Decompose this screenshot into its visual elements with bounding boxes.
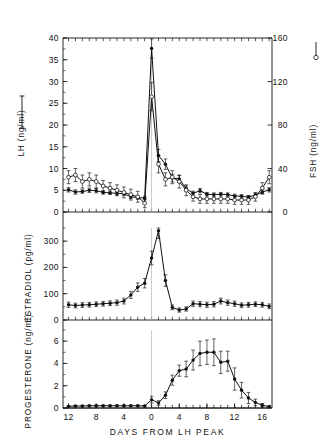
data-point [150,398,153,401]
plot-frame [63,38,272,408]
data-point [253,195,257,199]
data-point [67,175,71,179]
y2tick-label: 40 [278,164,288,174]
ytick-label: 20 [49,120,59,130]
xtick-label: 12 [63,412,73,422]
data-point [178,308,181,311]
data-point [198,303,201,306]
data-point [80,180,84,184]
y-axis-title: PROGESTERONE (ng/ml) [24,314,33,429]
ytick-label: 200 [44,262,59,272]
ytick-label: 6 [54,336,59,346]
ytick-label: 300 [44,236,59,246]
data-point [108,404,111,407]
data-point [81,303,84,306]
series-line [69,231,270,310]
y-axis-title: LH (ng/ml) [17,109,26,156]
data-point [67,188,70,191]
data-point [247,303,250,306]
ytick-label: 35 [49,55,59,65]
data-point [178,369,181,372]
y-axis-title: ESTRADIOL (pg/ml) [24,233,33,322]
data-point [122,299,125,302]
data-point [254,401,257,404]
series-line [69,97,270,204]
data-point [184,188,188,192]
data-point [108,301,111,304]
data-point [95,189,98,192]
ytick-label: 0 [54,207,59,217]
data-point [170,175,174,179]
data-point [101,404,104,407]
data-point [226,301,229,304]
series-line [69,48,270,198]
xtick-label: 8 [204,412,209,422]
ytick-label: 0 [54,403,59,413]
data-point [129,293,132,296]
hormone-profile-chart: 051015202530354004080120160FSH (ng/ml)LH… [0,0,336,446]
y2tick-label: 160 [273,33,288,43]
data-point [150,95,154,99]
data-point [81,190,84,193]
data-point [268,188,271,191]
data-point [184,367,187,370]
ytick-label: 15 [49,142,59,152]
data-point [184,307,187,310]
data-point [261,303,264,306]
xtick-label: 8 [94,412,99,422]
data-point [157,229,160,232]
ytick-label: 5 [54,185,59,195]
data-point [81,404,84,407]
data-point [136,195,140,199]
xtick-label: 4 [177,412,182,422]
xtick-label: 12 [229,412,239,422]
data-point [164,177,168,181]
data-point [87,177,91,181]
data-point [129,404,132,407]
data-point [115,404,118,407]
data-point [157,401,160,404]
data-point [240,388,243,391]
data-point [233,198,237,202]
data-point [247,396,250,399]
ytick-label: 40 [49,33,59,43]
y2tick-label: 80 [278,120,288,130]
series-lh [67,39,271,200]
panel-estradiol: 0100200300ESTRADIOL (pg/ml) [24,228,272,325]
data-point [240,304,243,307]
data-point [95,303,98,306]
data-point [74,304,77,307]
data-point [205,197,209,201]
data-point [136,404,139,407]
ytick-label: 10 [49,164,59,174]
data-point [267,175,271,179]
data-point [226,197,230,201]
ytick-label: 100 [44,289,59,299]
ytick-label: 30 [49,77,59,87]
ytick-label: 25 [49,98,59,108]
data-point [150,256,153,259]
data-point [122,191,126,195]
data-point [143,282,146,285]
data-point [115,188,119,192]
data-point [88,189,91,192]
data-point [108,186,112,190]
data-point [67,303,70,306]
data-point [205,303,208,306]
data-point [136,285,139,288]
data-point [191,195,195,199]
data-point [129,193,133,197]
data-point [164,393,167,396]
ytick-label: 0 [54,315,59,325]
series-line [69,352,270,406]
data-point [219,361,222,364]
data-point [191,302,194,305]
data-point [88,404,91,407]
data-point [219,299,222,302]
y2tick-label: 0 [283,207,288,217]
data-point [88,303,91,306]
xtick-label: 4 [121,412,126,422]
series-progesterone [67,339,271,408]
data-point [157,162,161,166]
data-point [94,180,98,184]
